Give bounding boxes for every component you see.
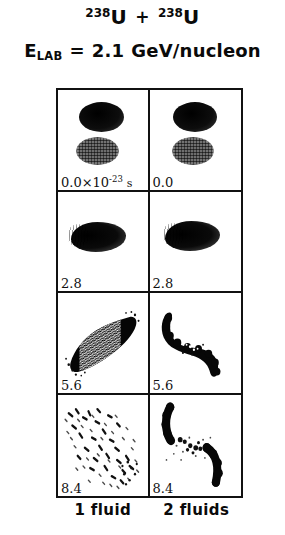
simulation-panel-grid: 0.0×10-23s 0.0 2.8 2.8	[56, 88, 243, 498]
figure-header: 238U+238U ELAB=2.1GeV/nucleon	[0, 0, 285, 82]
projectile-nucleus-blob	[173, 102, 217, 132]
time-label-1fluid-t56: 5.6	[61, 379, 82, 393]
time-label-2fluids-t0: 0.0	[153, 176, 174, 190]
panel-1fluid-t0: 0.0×10-23s	[58, 90, 150, 192]
time-value: 0.0×10	[61, 175, 109, 190]
panel-1fluid-t84: 8.4	[58, 395, 150, 497]
target-element-symbol: U	[183, 5, 200, 29]
energy-quantity-symbol: E	[24, 40, 37, 61]
panel-2fluids-t28: 2.8	[150, 192, 242, 294]
target-mass-number: 238	[158, 6, 183, 20]
energy-unit: GeV/nucleon	[131, 40, 261, 61]
time-label-1fluid-t0: 0.0×10-23s	[61, 175, 132, 190]
target-nucleus-blob	[76, 137, 119, 165]
reaction-equation: 238U+238U	[0, 7, 285, 27]
energy-subscript-lab: LAB	[37, 49, 63, 63]
time-label-1fluid-t28: 2.8	[61, 277, 82, 291]
time-label-1fluid-t84: 8.4	[61, 482, 82, 496]
energy-value: 2.1	[92, 40, 125, 61]
reaction-plus-operator: +	[127, 9, 158, 26]
merged-compressed-matter-blob	[71, 222, 126, 252]
beam-energy-equation: ELAB=2.1GeV/nucleon	[0, 42, 285, 63]
caption-one-fluid: 1 fluid	[56, 500, 150, 524]
time-label-2fluids-t28: 2.8	[153, 277, 174, 291]
time-label-2fluids-t56: 5.6	[153, 379, 174, 393]
caption-two-fluids: 2 fluids	[150, 500, 244, 524]
merged-compressed-matter-blob	[165, 221, 220, 251]
projectile-element-symbol: U	[110, 5, 127, 29]
time-label-2fluids-t84: 8.4	[153, 482, 174, 496]
panel-2fluids-t84: 8.4	[150, 395, 242, 497]
projectile-nucleus-blob	[79, 102, 124, 132]
time-unit-symbol: s	[127, 178, 133, 190]
panel-2fluids-t56: 5.6	[150, 293, 242, 395]
projectile-mass-number: 238	[85, 6, 110, 20]
target-nuclide: 238U	[158, 5, 200, 29]
column-captions: 1 fluid 2 fluids	[56, 500, 243, 524]
projectile-nuclide: 238U	[85, 5, 127, 29]
target-nucleus-blob	[172, 137, 213, 165]
panel-1fluid-t28: 2.8	[58, 192, 150, 294]
panel-1fluid-t56: 5.6	[58, 293, 150, 395]
panel-2fluids-t0: 0.0	[150, 90, 242, 192]
energy-equals-sign: =	[70, 40, 85, 61]
time-exponent: -23	[109, 174, 123, 184]
